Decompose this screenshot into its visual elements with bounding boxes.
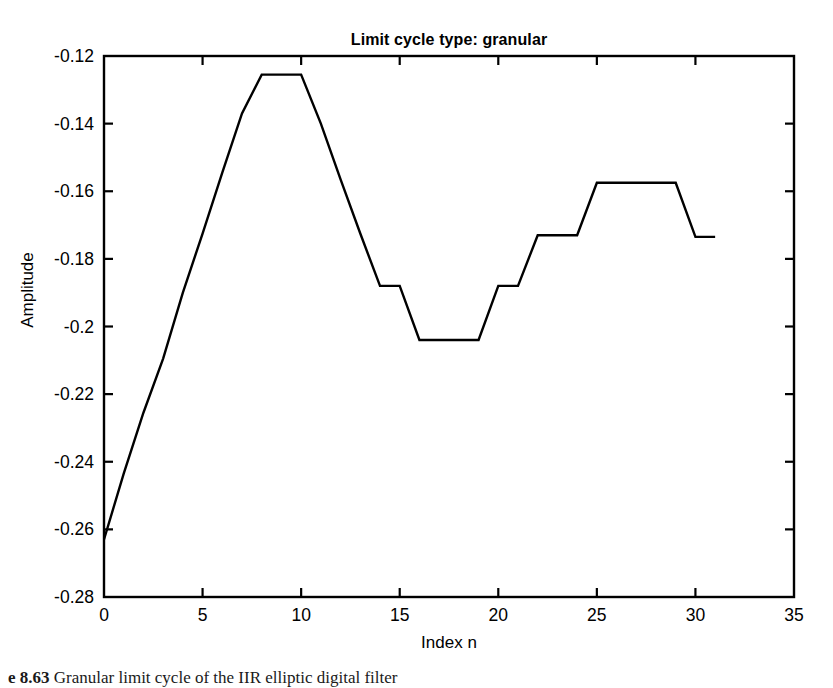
y-tick-label: -0.16 (0, 182, 94, 200)
x-tick-text: 30 (665, 604, 725, 626)
axes-frame (104, 56, 794, 597)
x-tick-text: 25 (567, 604, 627, 626)
y-tick-label: -0.18 (0, 250, 94, 268)
x-tick-text: 35 (764, 604, 824, 626)
y-tick-label: -0.2 (0, 318, 94, 336)
x-tick-text: 20 (468, 604, 528, 626)
y-tick-text: -0.18 (54, 250, 94, 268)
y-tick-text: -0.22 (54, 385, 94, 403)
y-tick-text: -0.26 (54, 520, 94, 538)
y-tick-text: -0.16 (54, 182, 94, 200)
x-tick-label: 20 (468, 604, 528, 626)
y-axis-label: Amplitude (18, 200, 38, 380)
y-tick-text: -0.14 (54, 115, 94, 133)
x-tick-label: 35 (764, 604, 824, 626)
x-tick-text: 0 (74, 604, 134, 626)
x-axis-label: Index n (104, 633, 794, 653)
y-tick-label: -0.22 (0, 385, 94, 403)
y-tick-text: -0.24 (54, 453, 94, 471)
x-tick-label: 15 (370, 604, 430, 626)
y-tick-label: -0.14 (0, 115, 94, 133)
data-series-line (104, 75, 715, 540)
y-tick-text: -0.12 (54, 47, 94, 65)
x-tick-label: 0 (74, 604, 134, 626)
x-tick-label: 25 (567, 604, 627, 626)
tick-marks (104, 56, 794, 597)
x-tick-label: 5 (173, 604, 233, 626)
x-tick-text: 15 (370, 604, 430, 626)
x-tick-label: 10 (271, 604, 331, 626)
figure-caption: e 8.63 Granular limit cycle of the IIR e… (8, 667, 828, 688)
y-tick-label: -0.24 (0, 453, 94, 471)
caption-text: Granular limit cycle of the IIR elliptic… (54, 668, 398, 687)
x-tick-text: 10 (271, 604, 331, 626)
x-tick-label: 30 (665, 604, 725, 626)
caption-number: e 8.63 (8, 668, 50, 687)
y-tick-label: -0.26 (0, 520, 94, 538)
y-tick-label: -0.12 (0, 47, 94, 65)
x-tick-text: 5 (173, 604, 233, 626)
y-tick-text: -0.2 (64, 318, 94, 336)
